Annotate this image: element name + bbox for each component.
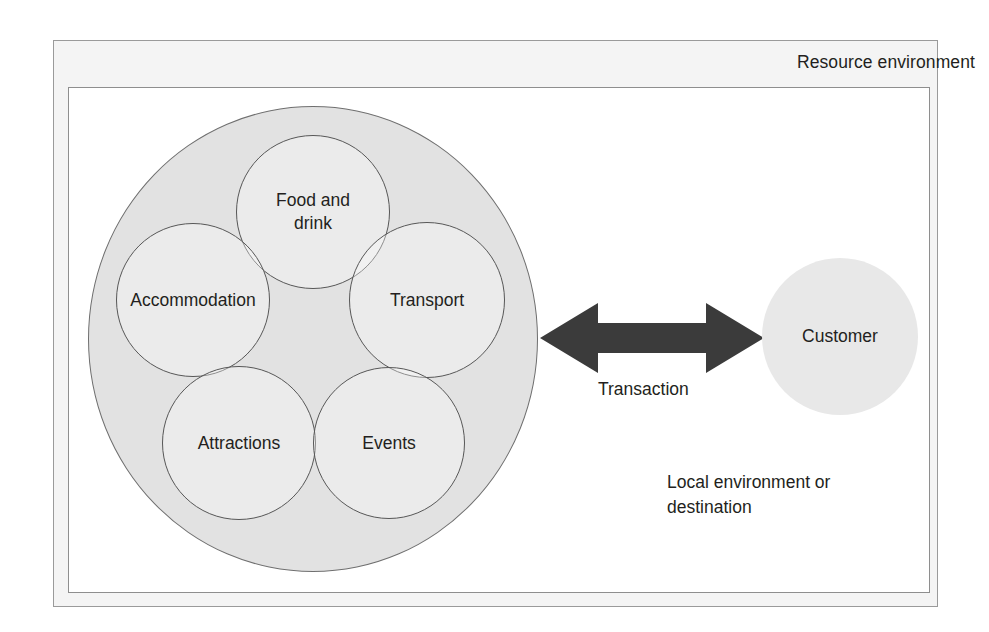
circle-transport-label: Transport — [390, 289, 464, 312]
local-environment-label: Local environment or destination — [667, 470, 830, 520]
transaction-arrow — [540, 300, 764, 376]
circle-attractions: Attractions — [162, 366, 316, 520]
circle-food-and-drink-label: Food and drink — [276, 189, 350, 235]
circle-accommodation: Accommodation — [116, 223, 270, 377]
transaction-label: Transaction — [598, 379, 689, 400]
diagram-canvas: Resource environment Local environment o… — [0, 0, 989, 632]
circle-customer-label: Customer — [802, 326, 878, 347]
circle-events: Events — [313, 367, 465, 519]
circle-attractions-label: Attractions — [198, 432, 281, 455]
circle-customer: Customer — [762, 258, 918, 415]
resource-environment-label: Resource environment — [797, 52, 975, 73]
circle-accommodation-label: Accommodation — [130, 289, 255, 312]
double-headed-arrow-icon — [540, 300, 764, 376]
circle-transport: Transport — [349, 222, 505, 378]
circle-events-label: Events — [362, 432, 416, 455]
